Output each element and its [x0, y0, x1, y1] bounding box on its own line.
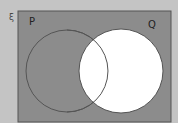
- universal-set-label: ξ: [9, 12, 14, 22]
- set-p-label: P: [29, 16, 35, 27]
- venn-diagram: ξ P Q: [0, 0, 178, 123]
- set-q-label: Q: [148, 19, 156, 30]
- set-q-circle: [79, 29, 163, 113]
